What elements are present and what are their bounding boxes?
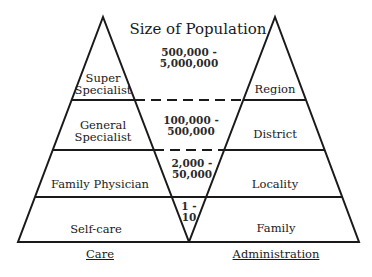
diagram-title: Size of Population (129, 22, 266, 38)
population-size-1: 500,000 - 5,000,000 (160, 47, 218, 69)
population-size-3: 2,000 - 50,000 (172, 158, 213, 180)
population-size-3-line2: 50,000 (172, 169, 213, 180)
population-size-4-line2: 10 (181, 212, 196, 223)
admin-tier-region: Region (255, 83, 296, 95)
care-axis-label: Care (86, 248, 114, 260)
population-size-1-line2: 5,000,000 (160, 58, 218, 69)
admin-tier-locality: Locality (252, 178, 298, 190)
care-tier-1-line2: Specialist (75, 84, 132, 96)
admin-tier-district: District (253, 128, 297, 140)
care-tier-2-line2: Specialist (75, 131, 132, 143)
population-size-4: 1 - 10 (181, 201, 196, 223)
pyramid-lines (0, 0, 372, 277)
population-size-2-line2: 500,000 (163, 126, 219, 137)
care-tier-super-specialist: Super Specialist (75, 72, 132, 96)
administration-axis-label: Administration (233, 248, 320, 260)
care-tier-family-physician: Family Physician (51, 178, 149, 190)
health-system-pyramid-diagram: Size of Population 500,000 - 5,000,000 1… (0, 0, 372, 277)
population-size-2: 100,000 - 500,000 (163, 115, 219, 137)
care-tier-self-care: Self-care (70, 223, 122, 235)
admin-tier-family: Family (257, 222, 296, 234)
care-tier-general-specialist: General Specialist (75, 119, 132, 143)
